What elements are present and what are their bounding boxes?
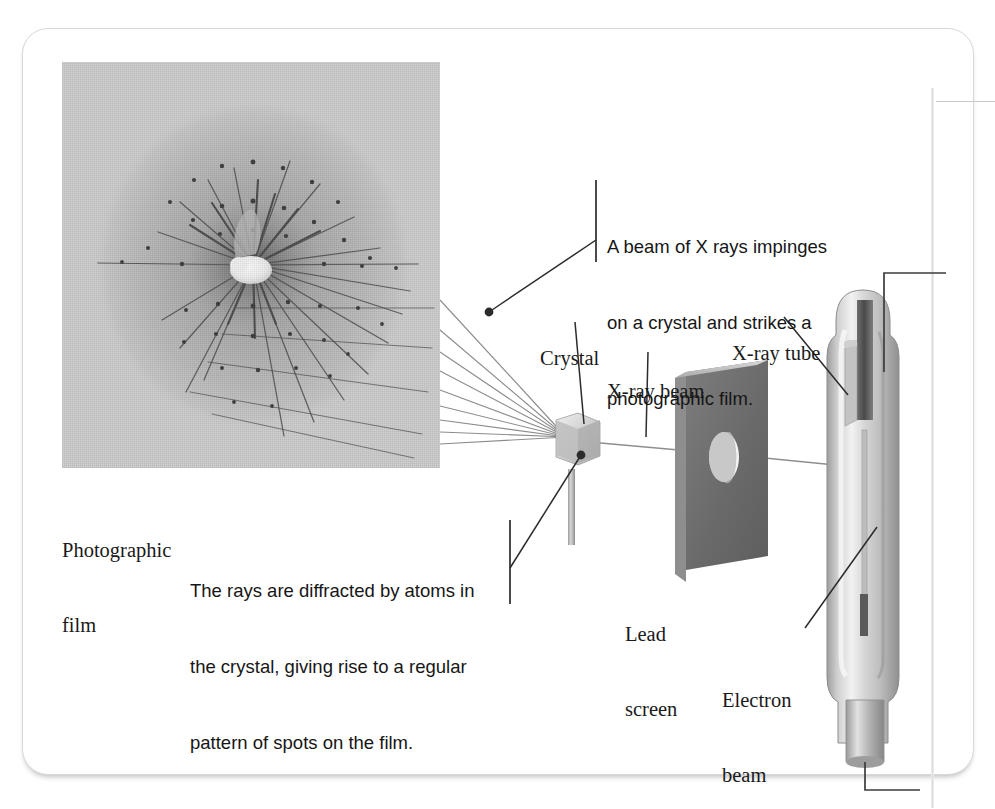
xray-tube-label-line-1: X-ray tube bbox=[732, 341, 820, 366]
photographic-film-label-line-1: Photographic bbox=[62, 538, 171, 563]
diffraction-callout-line-3: pattern of spots on the film. bbox=[190, 730, 474, 755]
xray-beam-label: X-ray beam bbox=[607, 329, 704, 454]
photographic-film-label-line-2: film bbox=[62, 613, 171, 638]
beam-callout-line-1: A beam of X rays impinges bbox=[607, 234, 827, 259]
lead-screen-label-line-1: Lead bbox=[625, 622, 677, 647]
xray-tube-body bbox=[827, 290, 899, 768]
diffraction-callout-line-1: The rays are diffracted by atoms in bbox=[190, 578, 474, 603]
lead-screen-label-line-2: screen bbox=[625, 697, 677, 722]
xray-tube-label: X-ray tube bbox=[732, 291, 820, 416]
diffraction-callout-text: The rays are diffracted by atoms in the … bbox=[190, 527, 474, 806]
electron-beam-label-line-2: beam bbox=[722, 763, 791, 788]
diffraction-callout-line-2: the crystal, giving rise to a regular bbox=[190, 654, 474, 679]
figure-page: A beam of X rays impinges on a crystal a… bbox=[0, 0, 995, 809]
photographic-film-label: Photographic film bbox=[62, 488, 171, 688]
crystal-label: Crystal bbox=[540, 296, 599, 421]
xray-beam-label-line-1: X-ray beam bbox=[607, 379, 704, 404]
lead-screen-label: Lead screen bbox=[625, 572, 677, 772]
electron-beam-label: Electron beam bbox=[722, 638, 791, 809]
crystal-specimen bbox=[556, 413, 600, 545]
crystal-label-line-1: Crystal bbox=[540, 346, 599, 371]
electron-beam-label-line-1: Electron bbox=[722, 688, 791, 713]
